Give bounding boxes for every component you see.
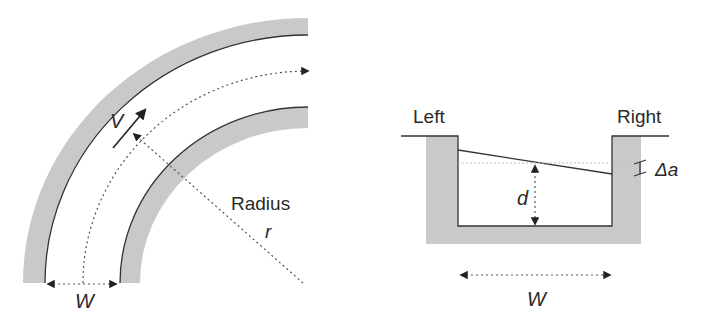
velocity-label: V (110, 110, 125, 132)
bend-width-label: W (75, 290, 96, 312)
diagram-canvas: V Radius r W Left Right d Δa W (0, 0, 715, 321)
channel-bend-plan-view: V Radius r W (23, 18, 308, 312)
superelevation-label: Δa (654, 159, 678, 180)
left-bank-label: Left (413, 106, 445, 127)
water-surface-line (458, 150, 612, 174)
radius-symbol: r (265, 221, 272, 242)
channel-cross-section: Left Right d Δa W (401, 106, 678, 310)
depth-label: d (517, 187, 529, 209)
outer-bank-wall (23, 18, 308, 283)
radius-label: Radius (231, 193, 290, 214)
right-bank-label: Right (617, 106, 662, 127)
section-width-label: W (527, 288, 548, 310)
